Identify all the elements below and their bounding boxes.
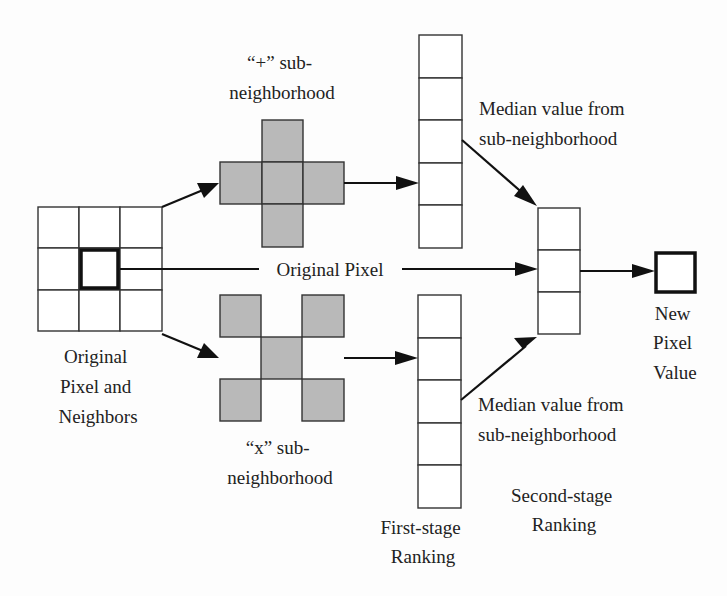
plus-cell — [262, 120, 303, 162]
x-cell — [302, 379, 344, 421]
rank-cell — [418, 295, 461, 338]
arrow-x-to-rank — [344, 351, 418, 365]
median-filter-diagram: Original Pixel and Neighbors “+” sub- ne… — [0, 0, 727, 596]
first-stage-label: First-stage Ranking — [381, 517, 466, 567]
original-pixel-cell — [81, 250, 118, 288]
plus-sub-label: “+” sub- neighborhood — [229, 52, 335, 103]
rank-cell — [419, 163, 462, 205]
median-top-label: Median value from sub-neighborhood — [479, 98, 629, 149]
first-stage-top-column — [419, 35, 462, 248]
rank-cell — [419, 120, 462, 163]
rank-cell — [419, 35, 462, 78]
arrow-second-to-new — [580, 264, 655, 278]
plus-cell — [262, 162, 303, 204]
grid-cell — [79, 290, 120, 331]
x-sub-label: “x” sub- neighborhood — [227, 437, 333, 488]
arrow-bottom-median — [461, 337, 537, 400]
rank-cell — [538, 208, 580, 250]
rank-cell — [418, 423, 461, 465]
original-pixel-label: Original Pixel — [276, 259, 383, 280]
rank-cell — [418, 380, 461, 423]
grid-cell — [120, 290, 162, 331]
rank-cell — [418, 465, 461, 508]
x-cell — [220, 295, 261, 337]
grid-cell — [38, 248, 79, 290]
plus-cell — [220, 162, 262, 204]
arrow-grid-to-plus — [162, 183, 219, 207]
neighborhood-label: Original Pixel and Neighbors — [58, 346, 137, 427]
new-pixel-box — [656, 253, 695, 292]
rank-cell — [538, 250, 580, 292]
rank-cell — [418, 338, 461, 380]
plus-cell — [303, 162, 344, 204]
arrow-plus-to-rank — [344, 176, 419, 190]
rank-cell — [419, 78, 462, 120]
x-cell — [261, 337, 302, 379]
second-stage-label: Second-stage Ranking — [511, 485, 617, 535]
x-cell — [220, 379, 261, 421]
new-pixel-label: New Pixel Value — [653, 303, 697, 383]
x-cell — [302, 295, 344, 337]
rank-cell — [419, 205, 462, 248]
plus-cell — [262, 204, 303, 247]
arrow-top-median — [462, 140, 537, 206]
rank-cell — [538, 292, 580, 334]
grid-cell — [38, 290, 79, 331]
arrow-grid-to-x — [162, 334, 219, 358]
median-bottom-label: Median value from sub-neighborhood — [478, 394, 628, 445]
first-stage-bottom-column — [418, 295, 461, 508]
grid-cell — [79, 207, 120, 248]
grid-cell — [120, 207, 162, 248]
grid-cell — [38, 207, 79, 248]
x-sub-neighborhood — [220, 295, 344, 421]
plus-sub-neighborhood — [220, 120, 344, 247]
second-stage-column — [538, 208, 580, 334]
